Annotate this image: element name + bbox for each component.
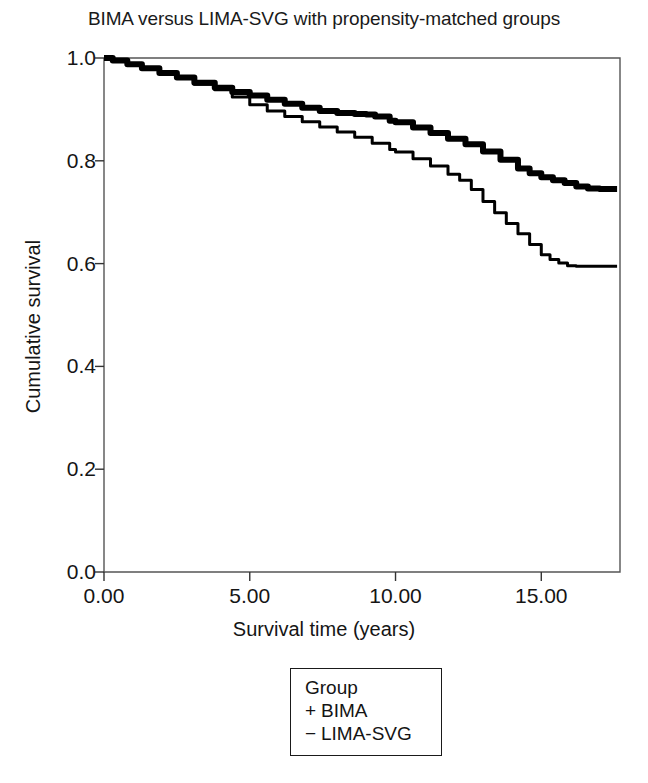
legend-entry-lima-svg: − LIMA-SVG <box>305 722 429 745</box>
plot-area: 0.00.20.40.60.81.0 0.005.0010.0015.00 Cu… <box>0 0 648 600</box>
plot-frame <box>104 58 620 572</box>
legend-title: Group <box>305 676 429 699</box>
survival-curves-svg <box>0 0 648 600</box>
survival-chart-figure: BIMA versus LIMA-SVG with propensity-mat… <box>0 0 648 783</box>
legend-label-lima-svg: LIMA-SVG <box>321 722 412 745</box>
x-tick-label: 5.00 <box>200 584 300 608</box>
survival-curve-lima-svg <box>104 58 617 266</box>
y-axis-tick-labels: 0.00.20.40.60.81.0 <box>40 0 96 600</box>
x-axis-title: Survival time (years) <box>0 618 648 641</box>
x-tick-label: 10.00 <box>346 584 446 608</box>
legend-entry-bima: + BIMA <box>305 699 429 722</box>
x-axis-tick-labels: 0.005.0010.0015.00 <box>0 584 648 616</box>
legend-label-bima: BIMA <box>321 699 367 722</box>
y-axis-title: Cumulative survival <box>22 187 45 467</box>
legend-marker-bima-icon: + <box>305 699 321 722</box>
survival-curves <box>104 58 617 266</box>
legend-marker-lima-svg-icon: − <box>305 722 321 745</box>
legend-box: Group + BIMA − LIMA-SVG <box>290 668 442 756</box>
plot-frame-border <box>104 58 620 572</box>
y-tick-label: 0.6 <box>44 252 96 276</box>
x-tick-label: 0.00 <box>54 584 154 608</box>
y-tick-label: 0.2 <box>44 457 96 481</box>
axis-ticks <box>95 58 541 581</box>
y-tick-label: 1.0 <box>44 46 96 70</box>
y-tick-label: 0.4 <box>44 354 96 378</box>
y-tick-label: 0.0 <box>44 560 96 584</box>
y-tick-label: 0.8 <box>44 149 96 173</box>
x-tick-label: 15.00 <box>491 584 591 608</box>
